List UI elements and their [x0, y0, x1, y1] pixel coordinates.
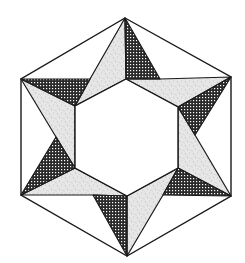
figure-canvas [0, 0, 245, 263]
hexagon-star-figure [0, 0, 245, 263]
